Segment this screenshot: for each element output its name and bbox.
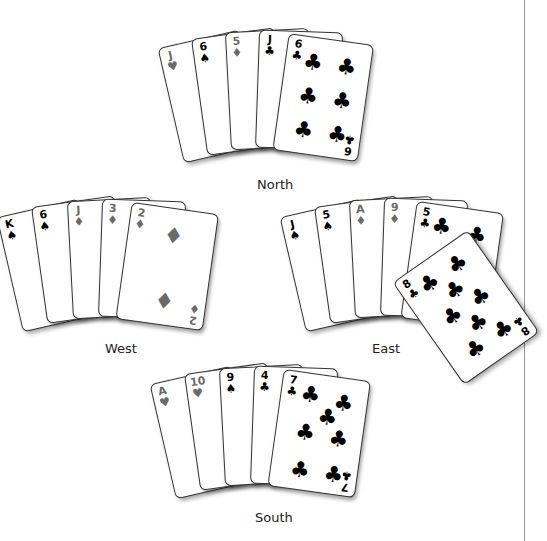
card-index: 2♦ — [133, 207, 148, 231]
card-index: 5♦ — [230, 35, 243, 59]
diamond-pip: ♦ — [161, 224, 186, 249]
card-index: A♦ — [354, 203, 367, 227]
card-index-bottom: 7♣ — [338, 469, 353, 493]
card-index: 3♦ — [106, 203, 119, 226]
hand-label-west: West — [105, 341, 137, 356]
club-pip: ♣ — [296, 84, 321, 109]
club-pip: ♣ — [291, 118, 316, 143]
card-index-bottom: 6♣ — [341, 133, 356, 157]
card-south-5[interactable]: 7♣ ♣ ♣ ♣ ♣ ♣ ♣ ♣ 7♣ — [267, 369, 371, 498]
hand-label-south: South — [255, 510, 293, 525]
club-pip: ♣ — [429, 214, 454, 239]
card-index: J♠ — [285, 218, 302, 243]
card-index: 6♠ — [196, 41, 211, 65]
card-index: 5♠ — [319, 209, 334, 233]
diamond-pip: ♦ — [152, 289, 177, 314]
club-pip: ♣ — [460, 334, 491, 365]
hand-label-east: East — [372, 341, 400, 356]
card-index: 4♣ — [258, 370, 271, 393]
club-pip: ♣ — [329, 89, 354, 114]
card-index: K♠ — [2, 218, 19, 243]
club-pip: ♣ — [334, 55, 359, 80]
card-index: J♥ — [163, 49, 180, 74]
card-west-5[interactable]: 2♦ ♦ ♦ 2♦ — [115, 202, 219, 331]
club-pip: ♣ — [326, 427, 351, 452]
hand-label-north: North — [257, 177, 293, 192]
card-index: A♥ — [155, 385, 172, 410]
club-pip: ♣ — [293, 420, 318, 445]
card-index: 9♦ — [388, 202, 401, 225]
card-index: J♦ — [72, 204, 85, 228]
divider-line — [524, 0, 525, 541]
card-index: 9♠ — [224, 371, 237, 395]
card-index-bottom: 2♦ — [186, 302, 201, 326]
club-pip: ♣ — [301, 50, 326, 75]
card-index: 6♠ — [36, 209, 51, 233]
card-index: J♣ — [263, 34, 276, 57]
card-north-5[interactable]: 6♣ ♣ ♣ ♣ ♣ ♣ ♣ 6♣ — [272, 33, 374, 162]
club-pip: ♣ — [287, 458, 312, 483]
card-index: 10♥ — [189, 376, 204, 400]
card-index: 7♣ — [285, 374, 300, 398]
